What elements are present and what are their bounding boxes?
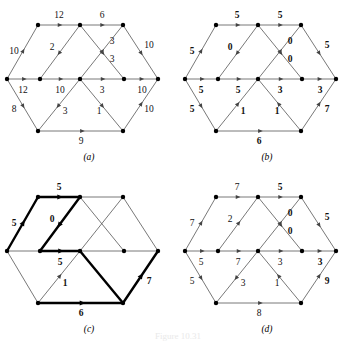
node-b2 (121, 129, 125, 133)
node-t3 (121, 23, 125, 27)
edge-label-m3-e: 10 (137, 85, 147, 95)
node-b1 (214, 129, 218, 133)
node-t1 (36, 195, 40, 199)
edge-label-b1-b2: 8 (257, 308, 262, 318)
node-t2 (78, 23, 82, 27)
node-m3 (122, 249, 126, 253)
edge-t3-e (123, 197, 158, 251)
node-e (334, 77, 338, 81)
node-b2 (299, 301, 303, 305)
edge-label-m2-t3: 3 (110, 36, 115, 46)
arrowhead-b2-e (316, 274, 320, 279)
node-t3 (299, 23, 303, 27)
arrowhead-m3-e (318, 77, 323, 81)
arrowhead-b1-b2 (258, 301, 263, 305)
edge-label-t2-m3: 0 (288, 54, 293, 64)
arrowhead-t3-e (316, 50, 320, 55)
edge-label-t1-t2: 7 (235, 182, 240, 192)
edge-label-s-m1: 5 (199, 85, 204, 95)
edge-label-s-b1: 5 (190, 104, 195, 114)
edge-label-t2-m1: 2 (50, 42, 55, 52)
arrowhead-s-b1 (198, 103, 202, 108)
node-m3 (300, 249, 304, 253)
node-m3 (300, 77, 304, 81)
arrowhead-m1-m2 (58, 248, 64, 253)
edge-label-m2-b2: 1 (275, 278, 280, 288)
edge-label-b1-m2: 3 (63, 106, 68, 116)
node-m2 (256, 77, 260, 81)
edge-label-t1-t2: 12 (54, 10, 64, 20)
edge-label-t2-t3: 5 (278, 182, 283, 192)
arrowhead-t2-t3 (278, 195, 283, 199)
node-b1 (214, 301, 218, 305)
node-m1 (38, 249, 42, 253)
graph-a: 10126233101210310831910 (0, 0, 178, 171)
node-t3 (299, 195, 303, 199)
arrowhead-t3-e (138, 50, 142, 55)
arrowhead-b2-e (138, 102, 142, 107)
arrowhead-s-m1 (200, 249, 205, 253)
edge-label-m2-b2: 1 (97, 106, 102, 116)
arrowhead-m2-m3 (101, 77, 106, 81)
edge-label-m1-m2: 7 (236, 257, 241, 267)
arrowhead-m1-m2 (237, 77, 242, 81)
node-t3 (121, 195, 125, 199)
edge-label-m2-m3: 3 (278, 85, 283, 95)
arrowhead-t2-m1 (58, 50, 62, 55)
edge-label-m1-m2: 5 (236, 85, 241, 95)
node-b1 (36, 301, 40, 305)
panel-c: 5505167(c) (0, 172, 178, 343)
arrowhead-s-b1 (20, 103, 24, 108)
edge-label-t2-m1: 0 (228, 42, 233, 52)
node-s (183, 77, 187, 81)
edge-label-b1-m2: 1 (63, 278, 68, 288)
node-b2 (121, 301, 125, 305)
arrowhead-s-m1 (22, 77, 27, 81)
node-t1 (214, 195, 218, 199)
arrowhead-t1-t2 (57, 194, 63, 199)
arrowhead-m2-m3 (279, 77, 284, 81)
arrowhead-m3-e (318, 249, 323, 253)
edge-label-s-b1: 8 (12, 104, 17, 114)
node-m3 (122, 77, 126, 81)
edge-label-b1-b2: 9 (79, 136, 84, 146)
arrowhead-b1-b2 (258, 129, 263, 133)
graph-d: 7752005573353189 (178, 172, 356, 343)
edge-label-b1-b2: 6 (257, 136, 262, 146)
arrowhead-t3-e (316, 222, 320, 227)
edge-label-m2-m3: 3 (100, 85, 105, 95)
node-m1 (38, 77, 42, 81)
node-e (156, 77, 160, 81)
edge-label-s-b1: 5 (190, 276, 195, 286)
edge-label-b2-e: 10 (144, 104, 154, 114)
edge-m2-b2 (80, 251, 123, 303)
edge-label-t2-t3: 6 (100, 10, 105, 20)
edge-label-t2-m1: 0 (50, 214, 55, 224)
edge-label-m2-b2: 1 (275, 106, 280, 116)
node-b2 (299, 129, 303, 133)
arrowhead-t1-t2 (236, 23, 241, 27)
node-s (183, 249, 187, 253)
arrowhead-t1-t2 (236, 195, 241, 199)
arrowhead-t2-m1 (236, 50, 240, 55)
edge-label-t3-e: 5 (325, 212, 330, 222)
figure-container: 10126233101210310831910(a) 5550005553351… (0, 0, 356, 343)
arrowhead-m1-m2 (237, 249, 242, 253)
edge-label-m1-m2: 10 (55, 85, 65, 95)
arrowhead-b2-e (316, 102, 320, 107)
edge-label-t2-m1: 2 (228, 214, 233, 224)
graph-b: 5550005553351167 (178, 0, 356, 171)
node-t1 (36, 23, 40, 27)
edge-label-m2-t3: 0 (288, 208, 293, 218)
edge-label-s-t1: 7 (190, 218, 195, 228)
arrowhead-m2-m3 (279, 249, 284, 253)
edge-label-b1-b2: 6 (79, 308, 84, 318)
node-e (156, 249, 160, 253)
edge-label-t1-t2: 5 (57, 182, 62, 192)
edge-label-s-m1: 5 (199, 257, 204, 267)
panel-caption-b: (b) (178, 152, 356, 162)
node-m2 (78, 77, 82, 81)
edge-label-m3-e: 3 (318, 257, 323, 267)
arrowhead-m3-e (140, 77, 145, 81)
edge-label-m2-t3: 0 (288, 36, 293, 46)
